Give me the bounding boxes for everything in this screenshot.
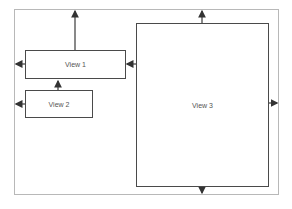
view-3-box: View 3	[136, 23, 269, 187]
view-2-label: View 2	[49, 101, 70, 108]
view-2-box: View 2	[25, 90, 93, 118]
view-1-box: View 1	[25, 50, 126, 79]
view-3-label: View 3	[192, 102, 213, 109]
view-1-label: View 1	[65, 61, 86, 68]
